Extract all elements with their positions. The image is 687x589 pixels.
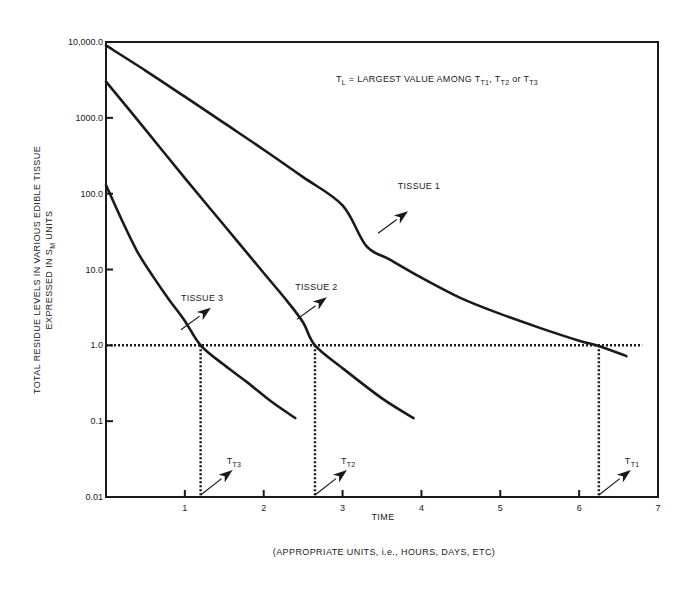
x-axis-title: TIME — [371, 512, 394, 522]
x-tick-label: 1 — [182, 503, 187, 513]
y-axis-title-line2: EXPRESSED IN SM UNITS — [44, 211, 56, 330]
y-axis-title-line1: TOTAL RESIDUE LEVELS IN VARIOUS EDIBLE T… — [32, 146, 42, 394]
tissue-1-arrow-head — [394, 211, 408, 223]
tissue-2-arrow-shaft — [297, 306, 316, 320]
y-tick-label: 0.1 — [90, 416, 103, 426]
y-tick-label: 0.01 — [85, 492, 103, 502]
y-tick-label: 10,000.0 — [68, 37, 103, 47]
marker-t3-arrow-head — [219, 470, 233, 483]
y-tick-label: 10.0 — [85, 265, 103, 275]
tissue-2-arrow-head — [313, 297, 327, 309]
marker-t1-arrow-shaft — [599, 479, 620, 495]
tissue-2-curve — [106, 82, 414, 418]
marker-t2-arrow-head — [333, 470, 347, 483]
x-tick-label: 4 — [419, 503, 424, 513]
y-tick-label: 100.0 — [80, 189, 103, 199]
marker-t2-arrow-shaft — [315, 479, 336, 495]
y-tick-label: 1000.0 — [75, 113, 103, 123]
x-axis-note: (APPROPRIATE UNITS, i.e., HOURS, DAYS, E… — [273, 547, 495, 557]
marker-t3-arrow-shaft — [201, 479, 222, 495]
chart-annotation: TL = LARGEST VALUE AMONG TT1, TT2 or TT3 — [336, 74, 538, 86]
tissue-3-label: TISSUE 3 — [181, 293, 223, 303]
residue-depletion-chart: 123456710,000.01000.0100.010.01.00.10.01… — [0, 0, 687, 589]
tissue-2-arrow — [297, 297, 327, 319]
tissue-2-label: TISSUE 2 — [295, 282, 337, 292]
y-tick-label: 1.0 — [90, 340, 103, 350]
tissue-3-arrow — [181, 308, 211, 330]
tissue-1-arrow — [378, 211, 408, 233]
tissue-1-label: TISSUE 1 — [398, 181, 440, 191]
tissue-1-arrow-shaft — [378, 220, 397, 234]
marker-t3-arrow — [201, 470, 233, 495]
tissue-3-arrow-head — [197, 308, 211, 320]
marker-t1-arrow-head — [617, 470, 631, 483]
x-tick-label: 2 — [261, 503, 266, 513]
marker-t1-arrow — [599, 470, 631, 495]
x-tick-label: 3 — [340, 503, 345, 513]
marker-t3-label: TT3 — [227, 456, 242, 468]
marker-t2-label: TT2 — [341, 456, 356, 468]
plot-frame — [106, 42, 658, 497]
x-tick-label: 5 — [498, 503, 503, 513]
x-tick-label: 6 — [577, 503, 582, 513]
tissue-1-curve — [106, 45, 626, 356]
marker-t1-label: TT1 — [625, 456, 640, 468]
x-tick-label: 7 — [655, 503, 660, 513]
